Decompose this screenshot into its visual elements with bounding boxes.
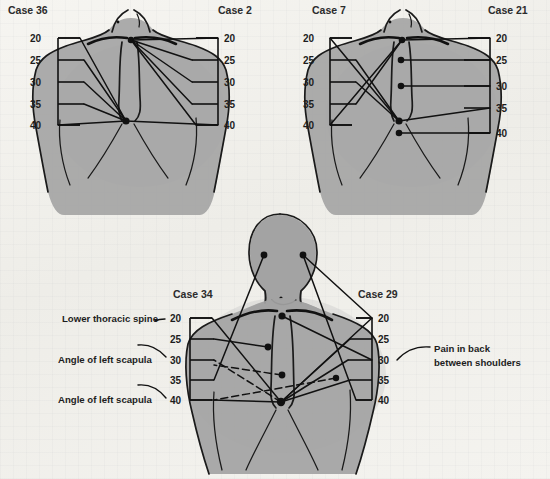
right-tick-35: 35 <box>224 99 236 110</box>
left-tick-30: 30 <box>30 77 42 88</box>
panel-top-left: 20 25 30 35 40 20 25 <box>8 4 252 215</box>
left-tick-40: 40 <box>30 120 42 131</box>
left-tick-20: 20 <box>170 313 182 324</box>
left-tick-35: 35 <box>30 99 42 110</box>
left-tick-30: 30 <box>170 355 182 366</box>
right-tick-30: 30 <box>496 81 508 92</box>
right-tick-30: 30 <box>224 77 236 88</box>
anatomical-figure: 20 25 30 35 40 20 25 <box>0 0 550 479</box>
right-tick-20: 20 <box>496 33 508 44</box>
case-label-2: Case 2 <box>218 4 252 16</box>
right-tick-20: 20 <box>378 313 390 324</box>
annotation-text: Angle of left scapula <box>58 394 152 405</box>
panel-top-right: 20 25 30 35 40 20 25 <box>303 4 528 215</box>
left-tick-35: 35 <box>170 375 182 386</box>
right-tick-35: 35 <box>496 103 508 114</box>
right-tick-40: 40 <box>496 128 508 139</box>
left-tick-30: 30 <box>303 77 315 88</box>
annotation-angle-left-scapula-30: Angle of left scapula <box>58 345 166 365</box>
annotation-text: Angle of left scapula <box>58 354 152 365</box>
right-tick-25: 25 <box>378 334 390 345</box>
case-label-36: Case 36 <box>8 4 48 16</box>
left-tick-20: 20 <box>30 33 42 44</box>
annotation-text-line2: between shoulders <box>434 357 521 368</box>
left-tick-40: 40 <box>170 395 182 406</box>
case-label-29: Case 29 <box>358 288 398 300</box>
landmark-dot <box>117 21 120 24</box>
landmark-dot <box>389 21 392 24</box>
annotation-angle-left-scapula-40: Angle of left scapula <box>58 385 166 405</box>
right-tick-30: 30 <box>378 355 390 366</box>
right-tick-20: 20 <box>224 33 236 44</box>
left-tick-25: 25 <box>30 55 42 66</box>
annotation-lower-thoracic-spine: Lower thoracic spine <box>62 313 165 324</box>
case-label-21: Case 21 <box>488 4 528 16</box>
left-tick-35: 35 <box>303 99 315 110</box>
left-tick-40: 40 <box>303 120 315 131</box>
left-tick-25: 25 <box>303 55 315 66</box>
case-label-7: Case 7 <box>312 4 346 16</box>
right-tick-25: 25 <box>496 55 508 66</box>
case-label-34: Case 34 <box>173 288 213 300</box>
annotation-text: Lower thoracic spine <box>62 313 158 324</box>
right-tick-25: 25 <box>224 55 236 66</box>
annotation-text-line1: Pain in back <box>434 343 491 354</box>
left-tick-25: 25 <box>170 334 182 345</box>
right-tick-40: 40 <box>378 395 390 406</box>
left-tick-20: 20 <box>303 33 315 44</box>
figure-root: 20 25 30 35 40 20 25 <box>0 0 550 479</box>
right-tick-35: 35 <box>378 375 390 386</box>
panel-bottom: 20 25 30 35 40 <box>58 214 521 474</box>
annotation-pain-in-back: Pain in back between shoulders <box>397 343 521 368</box>
right-tick-40: 40 <box>224 120 236 131</box>
